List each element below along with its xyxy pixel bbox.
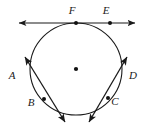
label-D: D bbox=[128, 69, 137, 81]
geometry-figure: F E A B C D bbox=[0, 0, 151, 131]
point-F-dot bbox=[74, 21, 78, 25]
geometry-canvas: F E A B C D bbox=[0, 0, 151, 131]
point-C-dot bbox=[106, 96, 110, 100]
label-B: B bbox=[28, 96, 35, 108]
label-E: E bbox=[102, 4, 110, 16]
line-CD-tangent bbox=[89, 57, 127, 122]
line-AB-tangent bbox=[25, 57, 65, 122]
point-B-dot bbox=[42, 97, 46, 101]
point-center-dot bbox=[74, 67, 78, 71]
label-F: F bbox=[68, 4, 76, 16]
point-E-dot bbox=[108, 21, 112, 25]
label-C: C bbox=[111, 95, 119, 107]
label-A: A bbox=[8, 69, 16, 81]
